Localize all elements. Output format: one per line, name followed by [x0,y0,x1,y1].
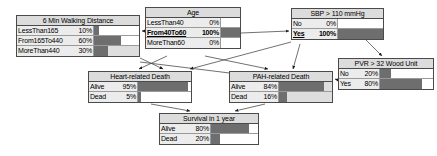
state-label: No [339,69,356,78]
network-diagram-canvas: 6 Min Walking Distance LessThan165 10% F… [0,0,437,156]
edge-heart-survival [151,104,190,111]
state-row[interactable]: Alive 84% [230,82,332,92]
state-percent: 80% [356,79,379,89]
node-states: LessThan165 10% From165To440 60% MoreTha… [17,26,139,56]
state-percent: 80% [187,124,210,133]
state-bar-track [93,36,139,45]
state-bar-fill [94,46,108,56]
node-states: Alive 95% Dead 5% [89,82,191,102]
node-title: Survival in 1 year [160,114,258,124]
node-survival-in-1-year[interactable]: Survival in 1 year Alive 80% Dead 20% [159,113,259,145]
state-label: Yes [292,29,313,39]
state-label: From40To60 [146,28,195,37]
node-states: Alive 84% Dead 16% [230,82,332,102]
state-row[interactable]: No 20% [339,69,433,79]
node-pvr-gt-32-wood-unit[interactable]: PVR > 32 Wood Unit No 20% Yes 80% [338,58,434,90]
state-percent: 30% [70,46,93,56]
node-states: LessThan40 0% From40To60 100% MoreThan60… [146,18,240,48]
node-title: Age [146,8,240,18]
state-row[interactable]: Alive 95% [89,82,191,92]
state-bar-track [379,69,433,78]
state-bar-track [337,29,383,39]
state-percent: 5% [114,92,137,102]
state-percent: 100% [313,29,337,39]
state-row[interactable]: Yes 80% [339,79,433,89]
node-title: PVR > 32 Wood Unit [339,59,433,69]
node-title: PAH-related Death [230,72,332,82]
state-label: Dead [160,134,187,144]
state-label: LessThan40 [146,18,195,27]
state-row[interactable]: Dead 5% [89,92,191,102]
state-percent: 20% [356,69,379,78]
state-label: No [292,19,313,28]
state-bar-fill [138,82,188,91]
state-bar-track [210,134,258,144]
node-pah-related-death[interactable]: PAH-related Death Alive 84% Dead 16% [229,71,333,103]
node-title: Heart-related Death [89,72,191,82]
state-bar-track [137,92,191,102]
state-label: LessThan165 [17,26,70,35]
state-label: Dead [89,92,114,102]
edge-walking-heart [140,58,163,69]
state-bar-fill [94,26,99,35]
state-row[interactable]: MoreThan440 30% [17,46,139,56]
edge-sbp-pvr [366,40,382,56]
node-6-min-walking-distance[interactable]: 6 Min Walking Distance LessThan165 10% F… [16,15,140,57]
state-label: Alive [160,124,187,133]
state-label: Alive [230,82,255,91]
state-percent: 100% [195,28,220,37]
node-title: 6 Min Walking Distance [17,16,139,26]
state-bar-fill [380,79,422,89]
state-bar-track [337,19,383,28]
state-row[interactable]: Dead 16% [230,92,332,102]
state-percent: 10% [70,26,93,35]
state-row[interactable]: From165To440 60% [17,36,139,46]
state-bar-track [220,18,240,27]
state-row[interactable]: Dead 20% [160,134,258,144]
node-age[interactable]: Age LessThan40 0% From40To60 100% MoreTh… [145,7,241,49]
state-percent: 0% [195,18,220,27]
node-states: Alive 80% Dead 20% [160,124,258,144]
state-bar-track [379,79,433,89]
node-states: No 20% Yes 80% [339,69,433,89]
state-bar-fill [279,92,287,102]
state-bar-fill [338,29,383,39]
state-bar-track [210,124,258,133]
state-percent: 20% [187,134,210,144]
state-bar-track [278,92,332,102]
state-row[interactable]: No 0% [292,19,383,29]
state-label: MoreThan60 [146,38,195,48]
state-row[interactable]: LessThan40 0% [146,18,240,28]
state-bar-track [220,28,240,37]
state-percent: 95% [114,82,137,91]
state-percent: 0% [313,19,337,28]
state-percent: 0% [195,38,220,48]
state-bar-track [220,38,240,48]
state-bar-fill [211,124,249,133]
state-row-selected[interactable]: Yes 100% [292,29,383,39]
state-bar-fill [138,92,141,102]
state-bar-fill [211,134,220,144]
edge-age-pah [205,56,268,69]
state-percent: 84% [255,82,278,91]
state-label: Yes [339,79,356,89]
node-sbp-gt-110[interactable]: SBP > 110 mmHg No 0% Yes 100% [291,8,384,40]
edge-age-heart [139,56,167,69]
node-title: SBP > 110 mmHg [292,9,383,19]
state-row-selected[interactable]: From40To60 100% [146,28,240,38]
state-row[interactable]: LessThan165 10% [17,26,139,36]
state-bar-track [93,46,139,56]
node-heart-related-death[interactable]: Heart-related Death Alive 95% Dead 5% [88,71,192,103]
state-percent: 16% [255,92,278,102]
state-row[interactable]: MoreThan60 0% [146,38,240,48]
edge-age-sbp [241,31,289,33]
state-label: Alive [89,82,114,91]
state-label: MoreThan440 [17,46,70,56]
state-label: From165To440 [17,36,70,45]
edge-pah-survival [235,104,265,111]
state-bar-fill [221,28,240,37]
state-bar-fill [380,69,391,78]
state-row[interactable]: Alive 80% [160,124,258,134]
state-bar-track [137,82,191,91]
state-bar-track [278,82,332,91]
